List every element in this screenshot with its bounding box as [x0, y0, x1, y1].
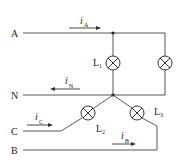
- svg-text:i: i: [80, 15, 83, 26]
- current-ia: i A: [69, 15, 101, 30]
- lamp-icon-l2: [81, 106, 95, 120]
- current-ib: i B: [112, 130, 136, 146]
- wire-l3-top: [113, 95, 132, 108]
- label-b: B: [11, 145, 18, 156]
- svg-text:i: i: [35, 111, 38, 122]
- svg-text:A: A: [84, 22, 89, 28]
- lamp-icon-right: [158, 56, 172, 70]
- lamp-icon-l1: [106, 56, 120, 70]
- lamp-icon-l3: [130, 106, 144, 120]
- svg-text:B: B: [125, 138, 129, 144]
- circuit-diagram: A i A L 1 N i N L: [0, 0, 181, 163]
- wire-l2-bottom: [61, 118, 82, 131]
- label-a: A: [11, 28, 19, 39]
- label-c: C: [11, 126, 18, 137]
- svg-text:2: 2: [102, 129, 105, 135]
- current-ic: i C: [27, 111, 53, 127]
- current-in: i N: [50, 75, 80, 91]
- wire-l3-bottom: [142, 118, 157, 126]
- svg-text:N: N: [69, 83, 74, 89]
- label-l1: L 1: [93, 57, 102, 69]
- svg-text:i: i: [65, 75, 68, 86]
- label-l3: L 3: [154, 106, 163, 118]
- svg-text:3: 3: [160, 112, 163, 118]
- svg-text:C: C: [39, 119, 43, 125]
- svg-text:1: 1: [99, 63, 102, 69]
- wire-l2-top: [94, 95, 113, 108]
- label-l2: L 2: [96, 123, 105, 135]
- svg-text:i: i: [121, 130, 124, 141]
- label-n: N: [11, 90, 18, 101]
